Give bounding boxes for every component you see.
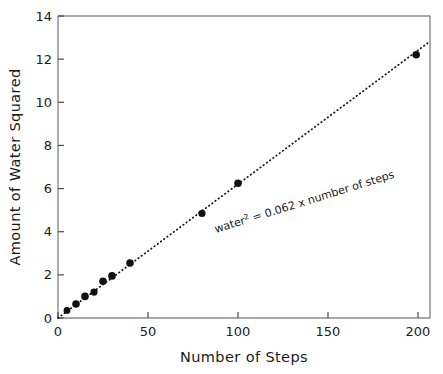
y-tick-label-14: 14 <box>35 9 52 24</box>
x-tick-label-200: 200 <box>406 324 431 339</box>
data-point <box>198 210 205 217</box>
data-point <box>64 307 71 314</box>
y-axis-tick-labels: 0 2 4 6 8 10 12 14 <box>35 9 52 326</box>
equation-prefix: water <box>213 214 247 236</box>
data-point <box>99 278 107 286</box>
y-tick-label-6: 6 <box>44 181 52 196</box>
data-point <box>126 259 134 267</box>
data-point <box>81 293 89 301</box>
scatter-plot-svg: 0 2 4 6 8 10 12 14 0 50 100 150 200 <box>0 0 443 374</box>
equation-suffix: = 0.062 x number of steps <box>248 168 397 225</box>
data-point <box>90 289 97 296</box>
x-tick-label-150: 150 <box>316 324 341 339</box>
y-tick-label-8: 8 <box>44 138 52 153</box>
y-tick-label-4: 4 <box>44 224 52 239</box>
trendline-equation-annotation: water2 = 0.062 x number of steps <box>213 167 396 236</box>
x-axis-ticks <box>58 312 418 318</box>
equation-text: water2 = 0.062 x number of steps <box>213 167 396 236</box>
y-tick-label-2: 2 <box>44 267 52 282</box>
x-axis-title: Number of Steps <box>180 349 308 365</box>
y-tick-label-0: 0 <box>44 311 52 326</box>
data-point <box>412 51 420 59</box>
data-point <box>108 272 116 280</box>
y-tick-label-12: 12 <box>35 52 52 67</box>
x-tick-label-50: 50 <box>140 324 157 339</box>
data-point <box>234 179 242 187</box>
y-axis-title: Amount of Water Squared <box>7 68 23 265</box>
x-tick-label-100: 100 <box>226 324 251 339</box>
y-tick-label-10: 10 <box>35 95 52 110</box>
data-point <box>72 300 80 308</box>
chart-figure: 0 2 4 6 8 10 12 14 0 50 100 150 200 <box>0 0 443 374</box>
x-tick-label-0: 0 <box>54 324 62 339</box>
x-axis-tick-labels: 0 50 100 150 200 <box>54 324 431 339</box>
y-axis-ticks <box>58 16 64 318</box>
